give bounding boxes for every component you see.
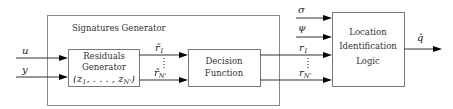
- decision-function-label-2: Function: [205, 68, 244, 78]
- arrowhead-icon: [323, 52, 332, 58]
- signature-rn-label: rN': [299, 67, 311, 80]
- decision-function-label-1: Decision: [206, 56, 244, 66]
- fault-diagnosis-block-diagram: Signatures Generator Residuals Generator…: [0, 0, 453, 109]
- residual-tilde-n-label: r̃N': [154, 67, 166, 80]
- arrowhead-icon: [59, 74, 68, 80]
- arrowhead-icon: [323, 15, 332, 21]
- output-q-hat-label: q̂: [417, 32, 423, 43]
- residuals-generator-label-2: Generator: [82, 62, 127, 72]
- signal-y-label: y: [21, 64, 28, 75]
- signature-r1-label: r1: [299, 42, 308, 55]
- arrowhead-icon: [179, 52, 188, 58]
- arrowhead-icon: [323, 34, 332, 40]
- signatures-generator-title: Signatures Generator: [72, 23, 167, 33]
- residuals-generator-label-1: Residuals: [83, 51, 125, 61]
- arrowhead-icon: [323, 77, 332, 83]
- arrowhead-icon: [179, 77, 188, 83]
- residual-tilde-1-label: r̃1: [155, 42, 164, 55]
- location-logic-label-3: Logic: [356, 56, 380, 66]
- signal-psi-label: ψ: [298, 22, 306, 33]
- signal-u-label: u: [22, 45, 28, 56]
- location-logic-label-2: Identification: [339, 41, 397, 51]
- location-logic-label-1: Location: [349, 27, 387, 37]
- arrowhead-icon: [59, 55, 68, 61]
- arrowhead-icon: [433, 46, 442, 52]
- signal-sigma-label: σ: [298, 4, 306, 15]
